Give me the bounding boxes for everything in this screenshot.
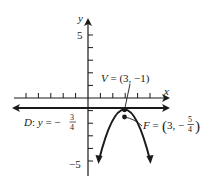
focus-label: F = (142, 119, 159, 131)
vertex-label: V = (3, −1) (101, 72, 150, 85)
directrix-fraction-num: 3 (70, 113, 74, 122)
y-tick-label-5: 5 (77, 29, 83, 41)
focus-fraction-den: 4 (188, 125, 192, 134)
focus-inner: 3, − (167, 119, 184, 131)
y-tick-label-neg5: −5 (69, 158, 81, 170)
focus-paren-right: ) (195, 118, 200, 135)
directrix-fraction-den: 4 (70, 123, 74, 132)
x-axis-label: x (163, 85, 169, 97)
parabola-graph: y x 5 −5 V = (3, −1) D: y = − 3 4 F = ( … (0, 0, 209, 191)
parabola-right-arrow (147, 155, 154, 164)
parabola-left-arrow (96, 155, 103, 164)
directrix-label: D: y = − (23, 116, 61, 128)
focus-fraction-num: 5 (188, 115, 192, 124)
y-axis-label: y (77, 12, 83, 24)
